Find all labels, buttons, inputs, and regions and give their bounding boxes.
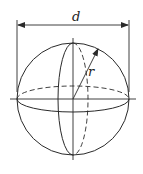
radius-arrow [73,49,98,99]
sphere-diagram: d r [0,0,143,174]
radius-label: r [88,64,95,79]
diameter-label: d [72,9,80,24]
sphere-figure: d r [0,0,143,174]
